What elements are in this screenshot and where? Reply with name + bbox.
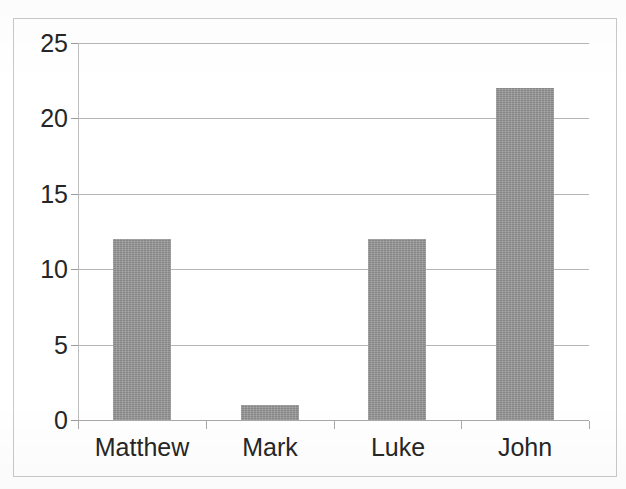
y-tick-label-5: 5 — [16, 332, 68, 357]
x-tick-label-luke: Luke — [371, 434, 425, 462]
y-tick-label-20: 20 — [16, 106, 68, 131]
plot-area — [78, 43, 589, 420]
bar-luke — [368, 239, 426, 420]
bar-chart-figure: 25 20 15 10 5 0 Matthew Mark Luke John — [0, 0, 626, 489]
y-tick-label-10: 10 — [16, 257, 68, 282]
bar-mark — [241, 405, 299, 420]
x-tick-mark-4 — [589, 421, 590, 429]
gridline-25 — [78, 43, 589, 44]
x-tick-mark-0 — [78, 421, 79, 429]
y-tick-label-0: 0 — [16, 408, 68, 433]
x-tick-label-matthew: Matthew — [95, 434, 189, 462]
x-tick-label-john: John — [498, 434, 552, 462]
y-axis-tick-labels: 25 20 15 10 5 0 — [8, 0, 68, 489]
y-tick-label-25: 25 — [16, 31, 68, 56]
x-tick-label-mark: Mark — [242, 434, 298, 462]
x-tick-mark-3 — [461, 421, 462, 429]
x-tick-mark-1 — [206, 421, 207, 429]
y-tick-label-15: 15 — [16, 181, 68, 206]
bar-matthew — [113, 239, 171, 420]
bar-john — [496, 88, 554, 420]
x-tick-mark-2 — [334, 421, 335, 429]
